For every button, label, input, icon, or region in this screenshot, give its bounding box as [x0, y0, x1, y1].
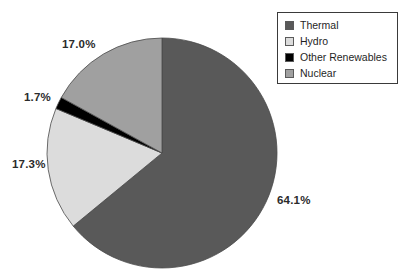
chart-legend: Thermal Hydro Other Renewables Nuclear: [277, 12, 398, 84]
legend-item-other-renewables: Other Renewables: [285, 50, 397, 65]
legend-item-thermal: Thermal: [285, 18, 397, 33]
legend-item-hydro: Hydro: [285, 34, 397, 49]
legend-label-nuclear: Nuclear: [300, 68, 336, 79]
legend-label-thermal: Thermal: [300, 20, 339, 31]
legend-item-nuclear: Nuclear: [285, 66, 397, 81]
pie-slice-group: [47, 38, 277, 268]
legend-swatch-other-renewables: [285, 53, 294, 62]
legend-swatch-thermal: [285, 21, 294, 30]
legend-label-hydro: Hydro: [300, 36, 328, 47]
pie-label-other-renewables: 1.7%: [24, 91, 51, 103]
pie-label-thermal: 64.1%: [277, 194, 311, 206]
legend-swatch-hydro: [285, 37, 294, 46]
pie-chart-figure: 64.1% 17.3% 1.7% 17.0% Thermal Hydro Oth…: [0, 0, 413, 272]
pie-label-hydro: 17.3%: [12, 158, 46, 170]
legend-label-other-renewables: Other Renewables: [300, 52, 387, 63]
legend-swatch-nuclear: [285, 69, 294, 78]
pie-label-nuclear: 17.0%: [62, 38, 96, 50]
